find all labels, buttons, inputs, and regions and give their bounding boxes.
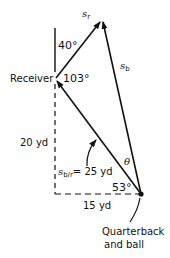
s-br-value: = 25 yd	[73, 166, 113, 177]
quarterback-label-line2: and ball	[104, 239, 144, 250]
label-s-br: sb/r= 25 yd	[58, 166, 113, 181]
leader-line-quarterback	[130, 198, 140, 222]
quarterback-label-line1: Quarterback	[102, 226, 164, 237]
s-r-subscript: r	[87, 13, 90, 21]
leader-line-s-br	[87, 140, 96, 166]
s-br-subscript: b/r	[63, 171, 73, 179]
receiver-label: Receiver	[10, 73, 53, 84]
distance-vertical: 20 yd	[20, 137, 48, 148]
vector-diagram	[0, 0, 170, 258]
angle-53: 53°	[112, 182, 132, 193]
label-s-r: sr	[82, 8, 90, 23]
angle-theta: θ	[124, 156, 130, 167]
angle-40: 40°	[58, 40, 78, 51]
label-s-b: sb	[120, 60, 130, 75]
s-b-subscript: b	[125, 65, 129, 73]
quarterback-point	[138, 191, 143, 196]
angle-103: 103°	[63, 73, 90, 84]
distance-horizontal: 15 yd	[83, 200, 111, 211]
